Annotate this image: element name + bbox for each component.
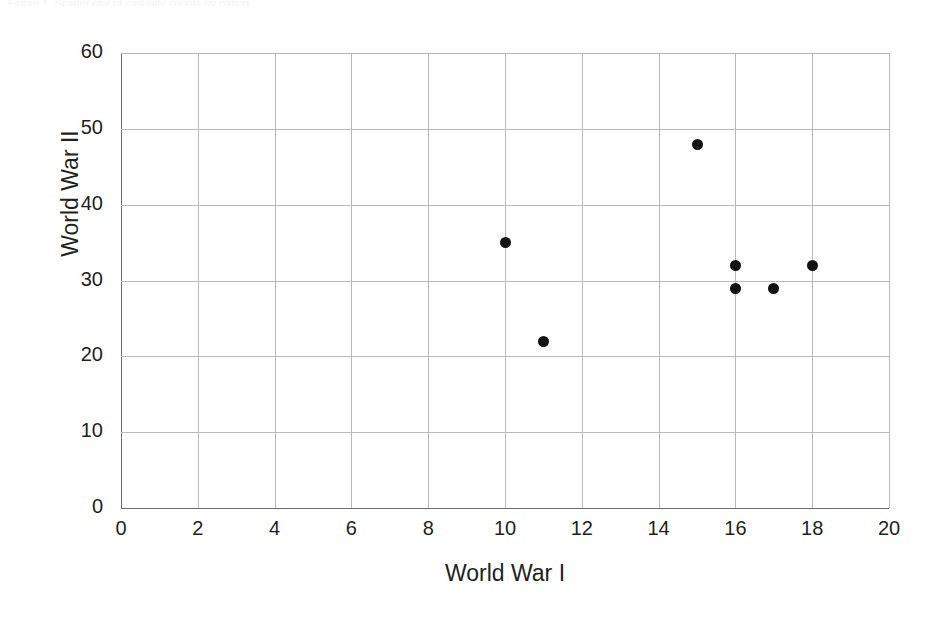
- x-tick-label: 0: [91, 517, 151, 540]
- y-tick-label: 40: [41, 192, 103, 215]
- data-point: [538, 336, 549, 347]
- data-point: [500, 237, 511, 248]
- scatter-plot-figure: Figure 1. Scatter plot of casualty count…: [0, 0, 929, 630]
- x-tick-label: 12: [552, 517, 612, 540]
- data-point: [768, 283, 779, 294]
- x-tick-label: 6: [321, 517, 381, 540]
- data-point: [807, 260, 818, 271]
- x-tick-label: 14: [629, 517, 689, 540]
- y-tick-label: 20: [41, 343, 103, 366]
- x-axis-title: World War I: [121, 560, 889, 587]
- gridline-horizontal: [121, 281, 889, 282]
- data-point: [692, 139, 703, 150]
- y-tick-label: 50: [41, 116, 103, 139]
- x-tick-label: 8: [398, 517, 458, 540]
- x-tick-label: 2: [168, 517, 228, 540]
- data-point: [730, 260, 741, 271]
- x-tick-label: 4: [245, 517, 305, 540]
- plot-area: [121, 53, 889, 508]
- plot-frame-right: [889, 53, 890, 508]
- plot-frame-top: [121, 53, 889, 54]
- y-tick-label: 0: [41, 495, 103, 518]
- x-axis-line: [121, 508, 889, 509]
- y-tick-label: 60: [41, 40, 103, 63]
- gridline-horizontal: [121, 432, 889, 433]
- x-tick-label: 20: [859, 517, 919, 540]
- gridline-horizontal: [121, 356, 889, 357]
- x-tick-label: 10: [475, 517, 535, 540]
- y-tick-label: 10: [41, 419, 103, 442]
- y-tick-label: 30: [41, 268, 103, 291]
- gridline-horizontal: [121, 129, 889, 130]
- data-point: [730, 283, 741, 294]
- x-tick-label: 18: [782, 517, 842, 540]
- x-tick-label: 16: [705, 517, 765, 540]
- gridline-horizontal: [121, 205, 889, 206]
